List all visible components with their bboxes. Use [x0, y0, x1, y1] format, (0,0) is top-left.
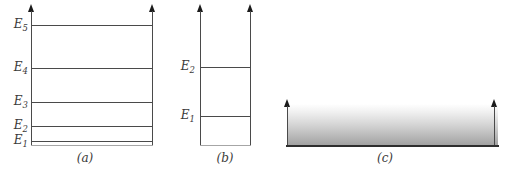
- continuum-band: [287, 104, 498, 145]
- left-arrow-line: [287, 106, 288, 145]
- energy-level-figure: E5 E4 E3 E2 E1 (a) E2 E1 (b) (c): [0, 0, 509, 177]
- panel-c-continuum: (c): [0, 0, 509, 177]
- baseline: [286, 145, 499, 147]
- panel-caption: (c): [360, 151, 410, 165]
- right-arrow-line: [494, 106, 495, 145]
